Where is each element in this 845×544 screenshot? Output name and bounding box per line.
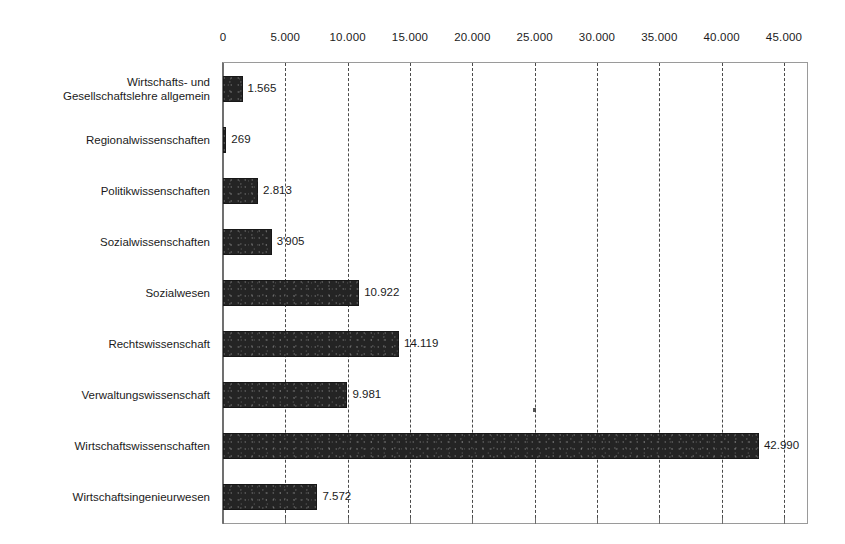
y-axis-category-labels: Wirtschafts- und Gesellschaftslehre allg…: [0, 62, 216, 524]
bar-chart: 05.00010.00015.00020.00025.00030.00035.0…: [0, 0, 845, 544]
plot-inner: 1.5652692.8133'90510.92214.1199.98142.99…: [223, 63, 807, 523]
x-axis-tick-20000: [472, 518, 473, 524]
y-axis-category-label: Politikwissenschaften: [0, 184, 210, 198]
x-axis-tick-5000: [285, 518, 286, 524]
x-axis-tick-35000: [659, 518, 660, 524]
gridline-45000: [784, 63, 785, 523]
x-axis-tick-0: [223, 518, 224, 524]
x-axis-tick-label-25000: 25.000: [516, 30, 552, 44]
x-axis-tick-label-15000: 15.000: [392, 30, 428, 44]
y-axis-category-label: Sozialwesen: [0, 286, 210, 300]
bar-value-label: 7.572: [322, 489, 351, 503]
y-axis-category-label: Rechtswissenschaft: [0, 337, 210, 351]
bar-value-label: 2.813: [263, 183, 292, 197]
bar-value-label: 42.990: [764, 438, 799, 452]
bar: [223, 127, 226, 153]
y-axis-category-label: Verwaltungswissenschaft: [0, 388, 210, 402]
x-axis-tick-labels: 05.00010.00015.00020.00025.00030.00035.0…: [0, 30, 845, 48]
bar: [223, 280, 359, 306]
y-axis-category-label: Wirtschaftsingenieurwesen: [0, 490, 210, 504]
bar: [223, 76, 243, 102]
x-axis-tick-label-20000: 20.000: [454, 30, 490, 44]
x-axis-tick-10000: [348, 518, 349, 524]
x-axis-tick-45000: [784, 518, 785, 524]
x-axis-tick-label-0: 0: [220, 30, 227, 44]
x-axis-tick-label-30000: 30.000: [579, 30, 615, 44]
bar: [223, 331, 399, 357]
bar: [223, 382, 347, 408]
bar-value-label: 269: [231, 132, 250, 146]
bar: [223, 433, 759, 459]
bar-value-label: 3'905: [277, 234, 305, 248]
bar-value-label: 9.981: [352, 387, 381, 401]
x-axis-tick-30000: [597, 518, 598, 524]
y-axis-category-label: Wirtschaftswissenschaften: [0, 439, 210, 453]
y-axis-category-label: Sozialwissenschaften: [0, 235, 210, 249]
bar-value-label: 14.119: [404, 336, 438, 350]
bar: [223, 484, 317, 510]
x-axis-tick-label-35000: 35.000: [641, 30, 677, 44]
x-axis-tick-label-5000: 5.000: [270, 30, 300, 44]
x-axis-tick-40000: [722, 518, 723, 524]
x-axis-tick-25000: [535, 518, 536, 524]
bar: [223, 229, 272, 255]
bar: [223, 178, 258, 204]
x-axis-tick-label-10000: 10.000: [329, 30, 365, 44]
x-axis-tick-label-45000: 45.000: [766, 30, 802, 44]
x-axis-tick-15000: [410, 518, 411, 524]
plot-area: 1.5652692.8133'90510.92214.1199.98142.99…: [222, 62, 808, 524]
scan-artifact-speck: [533, 408, 536, 412]
bar-value-label: 1.565: [248, 81, 277, 95]
y-axis-category-label: Wirtschafts- und Gesellschaftslehre allg…: [0, 75, 210, 103]
bar-value-label: 10.922: [364, 285, 399, 299]
x-axis-tick-label-40000: 40.000: [703, 30, 739, 44]
y-axis-category-label: Regionalwissenschaften: [0, 133, 210, 147]
